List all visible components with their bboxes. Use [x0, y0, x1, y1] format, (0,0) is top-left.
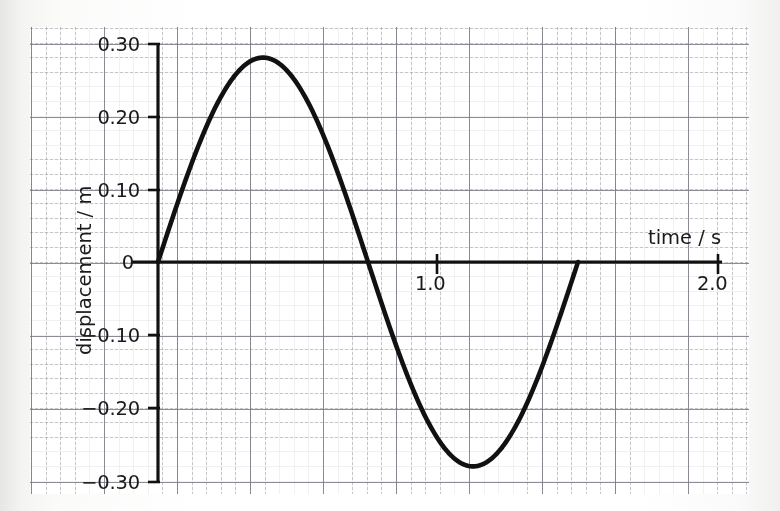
- graph-paper-grid: [30, 27, 749, 494]
- graph-figure: 0.30 0.20 0.10 0 −0.10 −0.20 −0.30 1.0 2…: [0, 0, 780, 511]
- x-tick-label-2-0: 2.0: [697, 272, 727, 295]
- grid-minor-lines: [30, 27, 749, 494]
- y-axis-title: displacement / m: [73, 186, 96, 355]
- x-axis-title: time / s: [648, 226, 721, 249]
- x-tick-label-1-0: 1.0: [415, 272, 445, 295]
- y-tick-label-0-20: 0.20: [52, 106, 140, 129]
- grid-major-lines: [30, 27, 749, 494]
- y-tick-label-0-30: 0.30: [52, 33, 140, 56]
- y-tick-label-0-10: 0.10: [52, 179, 140, 202]
- y-tick-label-minus-0-20: −0.20: [40, 397, 140, 420]
- y-tick-label-minus-0-30: −0.30: [40, 471, 140, 494]
